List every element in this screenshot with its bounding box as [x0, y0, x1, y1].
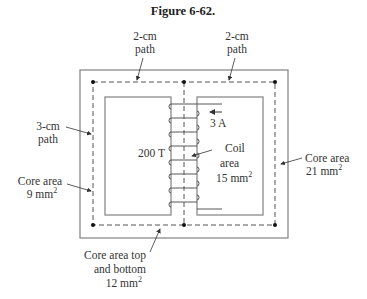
svg-text:path: path — [135, 43, 155, 56]
svg-text:path: path — [38, 133, 58, 146]
svg-text:15 mm2: 15 mm2 — [216, 170, 252, 184]
magnetic-circuit-figure: Figure 6-62. — [0, 0, 367, 299]
svg-text:2-cm: 2-cm — [225, 30, 249, 42]
coil-area-label: Coil area 15 mm2 — [192, 142, 252, 184]
svg-text:and bottom: and bottom — [94, 263, 146, 275]
turns-label: 200 T — [138, 147, 165, 159]
svg-text:area: area — [220, 157, 239, 169]
mean-path-dashed — [93, 82, 275, 225]
svg-text:2-cm: 2-cm — [133, 30, 157, 42]
right-core-area-label: Core area 21 mm2 — [281, 152, 349, 177]
figure-title: Figure 6-62. — [151, 4, 215, 18]
svg-text:9 mm2: 9 mm2 — [27, 186, 58, 200]
svg-text:21 mm2: 21 mm2 — [306, 163, 342, 177]
svg-text:Coil: Coil — [225, 142, 245, 154]
svg-text:Core area: Core area — [305, 152, 349, 164]
svg-text:Core area top: Core area top — [84, 249, 146, 262]
svg-text:path: path — [227, 43, 247, 56]
svg-text:12 mm2: 12 mm2 — [106, 275, 142, 289]
current-label: 3 A — [210, 117, 227, 129]
top-left-path-label: 2-cm path — [133, 30, 157, 80]
svg-text:3-cm: 3-cm — [36, 120, 60, 132]
top-right-path-label: 2-cm path — [225, 30, 249, 80]
left-path-label: 3-cm path — [36, 120, 91, 146]
